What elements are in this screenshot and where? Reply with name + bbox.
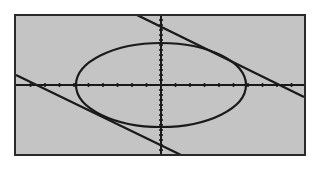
graph-plot	[0, 0, 318, 170]
graphing-calculator-screen	[0, 0, 318, 170]
